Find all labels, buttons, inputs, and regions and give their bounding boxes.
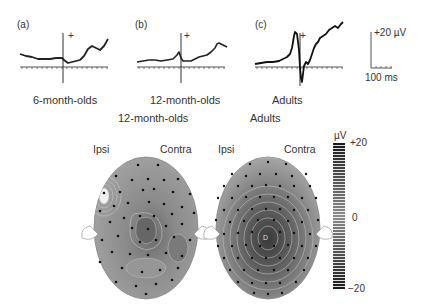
waveform-c — [253, 18, 353, 93]
map-title-12mo: 12-month-olds — [118, 112, 188, 124]
colorbar-unit: µV — [334, 130, 346, 141]
map-12mo-ipsi-label: Ipsi — [93, 143, 109, 155]
map-adults-ipsi-label: Ipsi — [218, 143, 234, 155]
map-title-adults: Adults — [250, 112, 281, 124]
colorbar — [333, 143, 349, 293]
colorbar-max-label: +20 — [350, 137, 367, 148]
group-label-a: 6-month-olds — [33, 94, 97, 106]
group-label-c: Adults — [272, 94, 303, 106]
waveform-b — [135, 28, 235, 93]
colorbar-min-label: −20 — [348, 283, 365, 294]
topomap-12-month-olds — [86, 156, 206, 306]
group-label-b: 12-month-olds — [150, 94, 220, 106]
map-minimum-marker: D — [263, 234, 268, 241]
map-adults-contra-label: Contra — [284, 143, 316, 155]
scale-time-label: 100 ms — [365, 72, 398, 83]
map-12mo-contra-label: Contra — [160, 143, 192, 155]
colorbar-mid-label: 0 — [352, 212, 358, 223]
scale-amplitude-label: +20 µV — [374, 27, 406, 38]
topomap-adults: D — [208, 156, 328, 306]
waveform-a — [18, 28, 118, 93]
